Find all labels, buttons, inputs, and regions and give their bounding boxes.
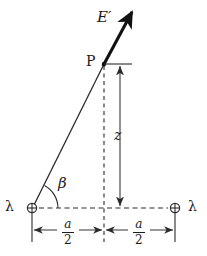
height-label: z [114,128,121,142]
right-line-charge-symbol [170,203,179,212]
left-line-charge-symbol [27,203,36,212]
right-half-separation-label: a 2 [133,218,145,246]
left-charge-density-label: λ [5,199,14,213]
field-vector-label-text: E [97,8,108,26]
angle-label: β [58,176,67,191]
left-half-separation-numerator: a [62,218,74,231]
point-p-label: P [86,54,95,68]
field-vector-shaft-lower [33,64,104,207]
right-charge-density-label: λ [188,199,197,213]
angle-arc [45,185,59,208]
left-half-separation-denominator: 2 [62,234,74,247]
right-half-separation-numerator: a [133,218,145,231]
field-vector-label: E′ [97,10,111,25]
left-half-separation-label: a 2 [62,218,74,246]
diagram-canvas [0,0,207,256]
physics-diagram-figure: E′ P z β λ λ a 2 a 2 [0,0,207,256]
field-vector-prime-glyph: ′ [108,8,111,26]
right-half-separation-denominator: 2 [133,234,145,247]
